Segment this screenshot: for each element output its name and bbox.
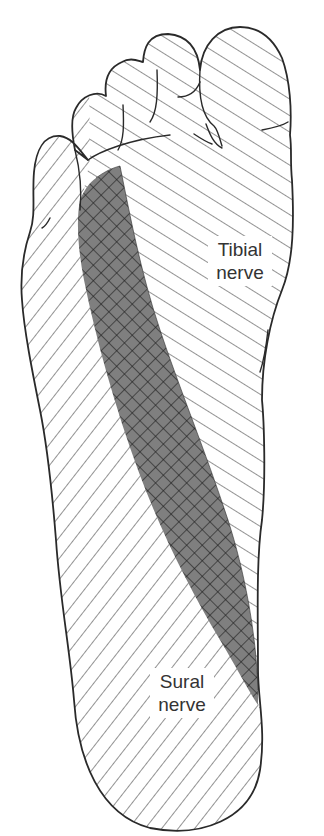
sural-label-line1: Sural (154, 670, 210, 693)
tibial-label-line2: nerve (212, 261, 268, 284)
sural-label-line2: nerve (154, 693, 210, 716)
sural-nerve-label: Sural nerve (150, 668, 214, 718)
tibial-label-line1: Tibial (212, 238, 268, 261)
tibial-nerve-label: Tibial nerve (208, 236, 272, 286)
